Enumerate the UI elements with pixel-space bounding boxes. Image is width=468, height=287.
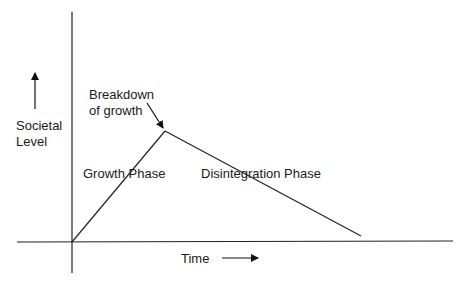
x-axis-label: Time bbox=[181, 251, 209, 267]
breakdown-annotation: Breakdown of growth bbox=[89, 87, 154, 119]
y-axis-label: Societal Level bbox=[16, 118, 62, 150]
annotation-line2: of growth bbox=[89, 103, 154, 119]
growth-phase-label: Growth Phase bbox=[83, 166, 165, 182]
annotation-line1: Breakdown bbox=[89, 87, 154, 103]
y-axis-label-line2: Level bbox=[16, 134, 62, 150]
disintegration-phase-label: Disintegration Phase bbox=[201, 166, 321, 182]
diagram-canvas bbox=[0, 0, 468, 287]
disintegration-line bbox=[165, 131, 361, 236]
y-axis-label-line1: Societal bbox=[16, 118, 62, 134]
growth-line bbox=[72, 131, 165, 242]
x-axis bbox=[17, 241, 453, 242]
